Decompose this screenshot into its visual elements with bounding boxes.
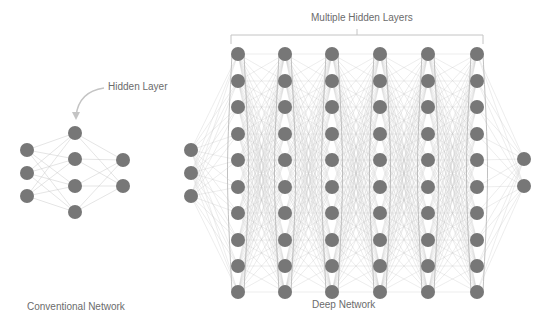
conventional-neuron [68, 152, 82, 166]
deep-neuron [421, 233, 435, 247]
deep-neuron [231, 206, 245, 220]
deep-neuron [470, 259, 484, 273]
deep-neuron [231, 259, 245, 273]
conventional-connection [27, 133, 75, 173]
deep-neuron [231, 74, 245, 88]
deep-neuron [231, 100, 245, 114]
conventional-connection [27, 173, 75, 212]
deep-connection [191, 196, 238, 240]
network-diagram [0, 0, 553, 330]
deep-neuron [517, 179, 531, 193]
conventional-connection [27, 173, 75, 186]
deep-neuron [470, 180, 484, 194]
conventional-neuron [116, 179, 130, 193]
deep-neuron [278, 233, 292, 247]
deep-neuron [278, 259, 292, 273]
deep-neuron [470, 153, 484, 167]
deep-connection [477, 81, 524, 186]
conventional-connection [27, 150, 75, 159]
conventional-neuron [68, 205, 82, 219]
deep-neuron [470, 100, 484, 114]
deep-neuron [373, 285, 387, 299]
deep-neuron [231, 233, 245, 247]
conventional-connection [27, 196, 75, 212]
deep-neuron [421, 47, 435, 61]
conventional-neuron [68, 179, 82, 193]
conventional-connection [27, 159, 75, 173]
deep-neuron [231, 127, 245, 141]
conventional-neuron [20, 143, 34, 157]
deep-neuron [325, 47, 339, 61]
deep-neuron [470, 206, 484, 220]
deep-neuron [470, 233, 484, 247]
hidden-layer-label: Hidden Layer [108, 81, 167, 92]
deep-connection [477, 159, 524, 187]
deep-connection [477, 81, 524, 159]
deep-neuron [373, 259, 387, 273]
deep-neuron [325, 180, 339, 194]
neurons [20, 47, 531, 299]
deep-neuron [184, 143, 198, 157]
conventional-connection [27, 133, 75, 150]
deep-connection [477, 159, 524, 240]
deep-neuron [421, 100, 435, 114]
conventional-neuron [116, 153, 130, 167]
conventional-network-label: Conventional Network [27, 301, 125, 312]
deep-neuron [325, 259, 339, 273]
deep-neuron [278, 127, 292, 141]
deep-connection [191, 81, 238, 196]
deep-neuron [373, 180, 387, 194]
deep-connection [477, 134, 524, 159]
hidden-layer-arrowhead [72, 112, 80, 120]
deep-neuron [421, 127, 435, 141]
conventional-connection [27, 150, 75, 212]
deep-neuron [373, 153, 387, 167]
deep-neuron [184, 189, 198, 203]
deep-neuron [373, 74, 387, 88]
connections [27, 54, 524, 292]
deep-neuron [373, 47, 387, 61]
conventional-connection [27, 186, 75, 196]
deep-neuron [325, 206, 339, 220]
deep-connection [477, 159, 524, 266]
deep-neuron [325, 127, 339, 141]
deep-neuron [373, 206, 387, 220]
deep-neuron [325, 285, 339, 299]
deep-neuron [278, 180, 292, 194]
deep-connection [191, 160, 238, 173]
deep-neuron [278, 285, 292, 299]
deep-neuron [470, 74, 484, 88]
deep-neuron [421, 259, 435, 273]
deep-neuron [184, 166, 198, 180]
deep-neuron [470, 285, 484, 299]
deep-neuron [278, 74, 292, 88]
deep-neuron [325, 100, 339, 114]
deep-neuron [231, 180, 245, 194]
deep-network-label: Deep Network [312, 299, 375, 310]
multiple-hidden-layers-bracket [231, 29, 483, 44]
multiple-hidden-layers-label: Multiple Hidden Layers [311, 12, 413, 23]
deep-neuron [325, 153, 339, 167]
conventional-neuron [20, 166, 34, 180]
deep-connection [477, 107, 524, 159]
conventional-connection [75, 186, 123, 212]
deep-neuron [421, 180, 435, 194]
deep-neuron [231, 47, 245, 61]
deep-layer-outline [467, 54, 488, 292]
deep-neuron [278, 206, 292, 220]
deep-neuron [325, 74, 339, 88]
deep-neuron [421, 206, 435, 220]
deep-neuron [278, 100, 292, 114]
deep-connection [191, 134, 238, 150]
deep-connection [191, 81, 238, 173]
deep-neuron [421, 285, 435, 299]
deep-neuron [231, 285, 245, 299]
hidden-layer-arrow [76, 88, 104, 116]
conventional-connection [75, 133, 123, 160]
deep-neuron [373, 233, 387, 247]
deep-layer-outline [418, 54, 439, 292]
deep-neuron [231, 153, 245, 167]
deep-neuron [470, 47, 484, 61]
deep-neuron [278, 153, 292, 167]
conventional-neuron [20, 189, 34, 203]
